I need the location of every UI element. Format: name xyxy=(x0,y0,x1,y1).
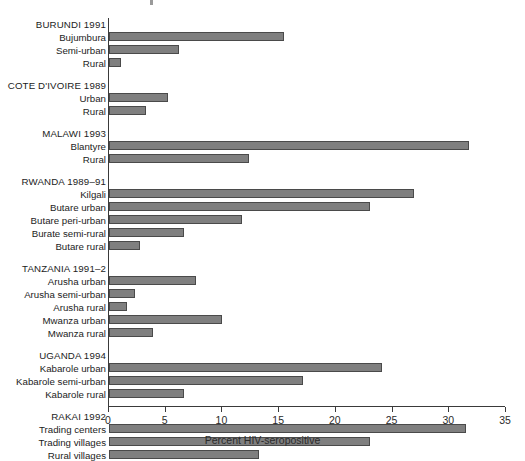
group-header-row: RWANDA 1989–91 xyxy=(0,175,525,188)
group-label: COTE D'IVOIRE 1989 xyxy=(8,79,106,92)
x-axis-tick xyxy=(108,407,109,412)
bar xyxy=(109,228,184,237)
group-label: UGANDA 1994 xyxy=(39,349,106,362)
group-header-row: UGANDA 1994 xyxy=(0,349,525,362)
bar-row: Bujumbura xyxy=(0,31,525,44)
x-axis-tick xyxy=(505,407,506,412)
x-axis-line xyxy=(108,406,505,407)
bar xyxy=(109,276,196,285)
bar-row: Kabarole rural xyxy=(0,388,525,401)
bar-row: Kabarole urban xyxy=(0,362,525,375)
x-axis-tick-label: 30 xyxy=(442,414,454,426)
bar-row: Kilgali xyxy=(0,188,525,201)
category-label: Kabarole urban xyxy=(40,362,106,375)
bar xyxy=(109,32,284,41)
bar xyxy=(109,45,179,54)
group-header-row: BURUNDI 1991 xyxy=(0,18,525,31)
bar xyxy=(109,376,303,385)
group-header-row: COTE D'IVOIRE 1989 xyxy=(0,79,525,92)
bar-row: Blantyre xyxy=(0,140,525,153)
x-axis-tick xyxy=(165,407,166,412)
group-label: BURUNDI 1991 xyxy=(36,18,106,31)
scan-artifact xyxy=(150,0,153,5)
bar xyxy=(109,202,370,211)
bar xyxy=(109,328,153,337)
category-label: Rural villages xyxy=(48,449,106,461)
x-axis-tick-label: 20 xyxy=(329,414,341,426)
x-axis-tick-label: 5 xyxy=(162,414,168,426)
x-axis-title: Percent HIV-seropositive xyxy=(0,434,525,446)
x-axis-tick-label: 25 xyxy=(386,414,398,426)
bar xyxy=(109,241,140,250)
bar xyxy=(109,363,382,372)
bar-row: Butare rural xyxy=(0,240,525,253)
category-label: Burate semi-rural xyxy=(32,227,106,240)
bar xyxy=(109,302,127,311)
x-axis-tick xyxy=(278,407,279,412)
bar xyxy=(109,141,469,150)
group-header-row: MALAWI 1993 xyxy=(0,127,525,140)
bar xyxy=(109,289,135,298)
bar xyxy=(109,189,414,198)
category-label: Mwanza urban xyxy=(42,314,106,327)
group-label: RWANDA 1989–91 xyxy=(22,175,107,188)
bar-row: Mwanza urban xyxy=(0,314,525,327)
category-label: Rural xyxy=(83,57,106,70)
category-label: Arusha semi-urban xyxy=(24,288,106,301)
category-label: Rural xyxy=(83,105,106,118)
category-label: Kabarole rural xyxy=(45,388,106,401)
bar-row: Arusha urban xyxy=(0,275,525,288)
bar xyxy=(109,93,168,102)
category-label: Urban xyxy=(80,92,106,105)
bar-row: Mwanza rural xyxy=(0,327,525,340)
bar-row: Kabarole semi-urban xyxy=(0,375,525,388)
category-label: Rural xyxy=(83,153,106,166)
category-label: Mwanza rural xyxy=(48,327,106,340)
bar-row: Arusha rural xyxy=(0,301,525,314)
category-label: Kabarole semi-urban xyxy=(16,375,106,388)
category-label: Kilgali xyxy=(80,188,106,201)
bar xyxy=(109,106,146,115)
bar xyxy=(109,58,121,67)
bar-row: Butare urban xyxy=(0,201,525,214)
group-label: MALAWI 1993 xyxy=(42,127,106,140)
x-axis-tick xyxy=(392,407,393,412)
bar xyxy=(109,450,259,459)
bar-row: Butare peri-urban xyxy=(0,214,525,227)
group-header-row: TANZANIA 1991–2 xyxy=(0,262,525,275)
x-axis-tick xyxy=(221,407,222,412)
x-axis-tick-label: 0 xyxy=(105,414,111,426)
x-axis-tick xyxy=(335,407,336,412)
bar-row: Semi-urban xyxy=(0,44,525,57)
category-label: Arusha rural xyxy=(53,301,106,314)
group-label: TANZANIA 1991–2 xyxy=(22,262,106,275)
x-axis-tick-label: 35 xyxy=(499,414,511,426)
bar xyxy=(109,315,222,324)
category-label: Butare peri-urban xyxy=(31,214,106,227)
chart-page: BURUNDI 1991BujumburaSemi-urbanRuralCOTE… xyxy=(0,0,525,461)
x-axis-tick-label: 10 xyxy=(216,414,228,426)
bar xyxy=(109,389,184,398)
bar-row: Rural xyxy=(0,57,525,70)
x-axis-tick-label: 15 xyxy=(272,414,284,426)
bar-row: Rural xyxy=(0,105,525,118)
bar xyxy=(109,215,242,224)
category-label: Blantyre xyxy=(70,140,106,153)
bar-row: Burate semi-rural xyxy=(0,227,525,240)
category-label: Semi-urban xyxy=(56,44,106,57)
bar-row: Urban xyxy=(0,92,525,105)
bar-row: Rural villages xyxy=(0,449,525,461)
category-label: Bujumbura xyxy=(59,31,106,44)
bar-row: Rural xyxy=(0,153,525,166)
group-label: RAKAI 1992 xyxy=(51,410,106,423)
bar xyxy=(109,154,249,163)
category-label: Butare urban xyxy=(50,201,106,214)
x-axis-tick xyxy=(448,407,449,412)
category-label: Butare rural xyxy=(55,240,106,253)
category-label: Arusha urban xyxy=(48,275,106,288)
bar-row: Arusha semi-urban xyxy=(0,288,525,301)
